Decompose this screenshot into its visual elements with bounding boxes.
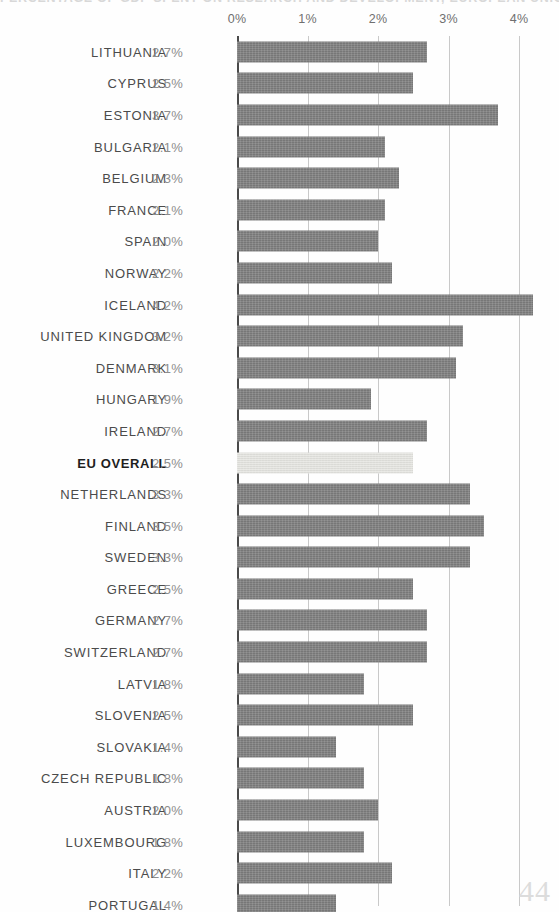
row-value: 1.4%	[152, 739, 183, 754]
row-value: 4.2%	[152, 297, 183, 312]
row-value: 2.2%	[152, 866, 183, 881]
chart-row: HUNGARY1.9%	[0, 384, 559, 416]
chart-row: LUXEMBOURG1.8%	[0, 826, 559, 858]
bar	[237, 231, 378, 252]
chart-row: ICELAND4.2%	[0, 289, 559, 321]
chart-row: GERMANY2.7%	[0, 605, 559, 637]
chart-row: SPAIN2.0%	[0, 226, 559, 258]
bar	[237, 736, 336, 757]
row-value: 2.3%	[152, 171, 183, 186]
chart-row: SLOVAKIA1.4%	[0, 731, 559, 763]
chart-row: GREECE2.5%	[0, 573, 559, 605]
bar	[237, 610, 427, 631]
chart-row: BELGIUM2.3%	[0, 162, 559, 194]
chart-row: LITHUANIA2.7%	[0, 36, 559, 68]
x-axis-tick-3: 3%	[439, 12, 458, 26]
x-axis-tick-labels: 0%1%2%3%4%	[0, 12, 559, 34]
bar	[237, 420, 427, 441]
bar	[237, 705, 413, 726]
chart-rows: LITHUANIA2.7%CYPRUS2.5%ESTONIA3.7%BULGAR…	[0, 36, 559, 912]
row-label-netherlands: NETHERLANDS	[60, 487, 167, 502]
x-axis-tick-2: 2%	[369, 12, 388, 26]
row-value: 1.8%	[152, 771, 183, 786]
bar	[237, 831, 364, 852]
chart-row: SWEDEN3.3%	[0, 542, 559, 574]
bar	[237, 452, 413, 473]
chart-title: PERCENTAGE OF GDP SPENT ON RESEARCH AND …	[0, 0, 559, 5]
row-value: 2.0%	[152, 234, 183, 249]
row-value: 1.4%	[152, 897, 183, 912]
row-value: 1.8%	[152, 676, 183, 691]
chart-row: UNITED KINGDOM3.2%	[0, 320, 559, 352]
row-value: 3.1%	[152, 360, 183, 375]
bar	[237, 357, 456, 378]
bar	[237, 800, 378, 821]
chart-row: PORTUGAL1.4%	[0, 889, 559, 912]
chart-row: CYPRUS2.5%	[0, 68, 559, 100]
chart-page: PERCENTAGE OF GDP SPENT ON RESEARCH AND …	[0, 0, 559, 912]
x-axis-tick-4: 4%	[510, 12, 529, 26]
row-label-czech-republic: CZECH REPUBLIC	[41, 771, 167, 786]
row-label-united-kingdom: UNITED KINGDOM	[40, 329, 167, 344]
row-value: 3.5%	[152, 518, 183, 533]
row-value: 2.5%	[152, 708, 183, 723]
bar	[237, 547, 470, 568]
bar	[237, 262, 392, 283]
plot-area: LITHUANIA2.7%CYPRUS2.5%ESTONIA3.7%BULGAR…	[0, 36, 559, 912]
bar	[237, 168, 399, 189]
x-axis-tick-1: 1%	[298, 12, 317, 26]
row-value: 2.7%	[152, 44, 183, 59]
bar	[237, 642, 427, 663]
row-value: 2.5%	[152, 76, 183, 91]
bar	[237, 578, 413, 599]
x-axis-tick-0: 0%	[228, 12, 247, 26]
bar	[237, 863, 392, 884]
chart-row: DENMARK3.1%	[0, 352, 559, 384]
row-value: 2.1%	[152, 202, 183, 217]
chart-row: LATVIA1.8%	[0, 668, 559, 700]
bar	[237, 768, 364, 789]
chart-row: ESTONIA3.7%	[0, 99, 559, 131]
row-value: 2.7%	[152, 645, 183, 660]
row-value: 2.0%	[152, 803, 183, 818]
row-value: 2.7%	[152, 423, 183, 438]
chart-row: FRANCE2.1%	[0, 194, 559, 226]
row-value: 2.2%	[152, 265, 183, 280]
chart-row: BULGARIA2.1%	[0, 131, 559, 163]
page-number: 44	[519, 874, 551, 908]
bar	[237, 41, 427, 62]
bar	[237, 326, 463, 347]
bar	[237, 515, 484, 536]
chart-row: CZECH REPUBLIC1.8%	[0, 763, 559, 795]
row-value: 1.8%	[152, 834, 183, 849]
chart-row: IRELAND2.7%	[0, 415, 559, 447]
chart-row: AUSTRIA2.0%	[0, 794, 559, 826]
row-value: 2.7%	[152, 613, 183, 628]
row-value: 3.3%	[152, 550, 183, 565]
chart-row: FINLAND3.5%	[0, 510, 559, 542]
bar	[237, 294, 533, 315]
row-value: 3.2%	[152, 329, 183, 344]
chart-row: NETHERLANDS3.3%	[0, 478, 559, 510]
chart-row: ITALY2.2%	[0, 857, 559, 889]
row-value: 1.9%	[152, 392, 183, 407]
bar	[237, 389, 371, 410]
row-value: 2.5%	[152, 581, 183, 596]
bar	[237, 894, 336, 912]
bar	[237, 199, 385, 220]
chart-row: EU OVERALL2.5%	[0, 447, 559, 479]
bar	[237, 104, 498, 125]
row-value: 3.7%	[152, 107, 183, 122]
row-value: 2.1%	[152, 139, 183, 154]
bar	[237, 136, 385, 157]
bar	[237, 484, 470, 505]
bar	[237, 73, 413, 94]
row-value: 3.3%	[152, 487, 183, 502]
chart-row: SLOVENIA2.5%	[0, 699, 559, 731]
row-value: 2.5%	[152, 455, 183, 470]
chart-row: SWITZERLAND2.7%	[0, 636, 559, 668]
bar	[237, 673, 364, 694]
chart-row: NORWAY2.2%	[0, 257, 559, 289]
